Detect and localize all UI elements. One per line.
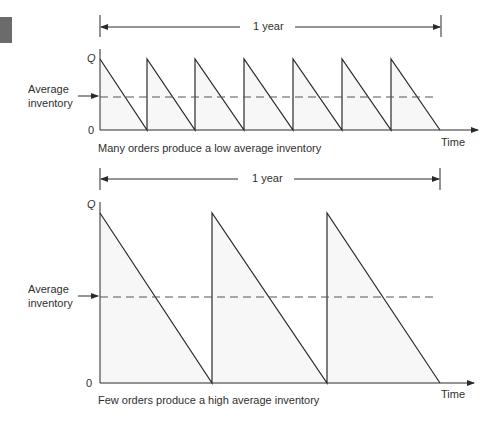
top-caption: Many orders produce a low average invent… [98, 142, 321, 155]
bottom-average-label-1: Average [28, 283, 69, 296]
top-x-axis-label: Time [441, 136, 465, 149]
top-period-label: 1 year [250, 20, 287, 33]
top-shade [100, 59, 440, 130]
top-average-label-2: inventory [28, 97, 73, 110]
top-y-zero-label: 0 [88, 124, 94, 137]
bottom-period-label: 1 year [249, 172, 286, 185]
bottom-y-zero-label: 0 [86, 377, 92, 390]
bottom-average-label-2: inventory [28, 297, 73, 310]
bottom-caption: Few orders produce a high average invent… [98, 394, 319, 407]
top-y-q-label: Q [87, 52, 96, 65]
diagram-canvas [0, 0, 502, 425]
top-average-label-1: Average [28, 83, 69, 96]
bottom-x-axis-label: Time [441, 388, 465, 401]
bottom-y-q-label: Q [87, 198, 96, 211]
bottom-chart [78, 168, 474, 383]
